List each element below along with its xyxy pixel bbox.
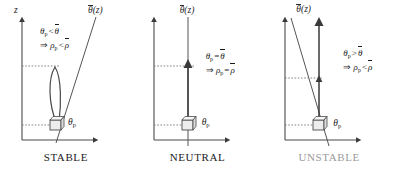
relation-operator: > — [351, 48, 358, 58]
parcel-label-neutral: θp — [202, 118, 210, 128]
rhs-symbol-2: ρ — [65, 38, 69, 52]
theta-bar-symbol: θ — [180, 5, 185, 16]
theta-bar-arg: (z) — [93, 5, 103, 15]
caption-neutral: NEUTRAL — [132, 151, 264, 163]
relation-line-2: ⇒ ρp=ρ — [206, 63, 235, 77]
implies-symbol: ⇒ — [40, 40, 48, 50]
panel-unstable-graphic — [263, 0, 395, 172]
relation-line-2: ⇒ ρp<ρ — [40, 38, 69, 52]
panel-unstable: θ(z) θp>θ ⇒ ρp<ρ θp UNSTABLE — [263, 0, 395, 172]
panel-neutral: θ(z) θp=θ ⇒ ρp=ρ θp NEUTRAL — [132, 0, 264, 172]
theta-bar-symbol: θ — [296, 4, 301, 15]
relation-operator-2: < — [58, 40, 65, 50]
relation-text-unstable: θp>θ ⇒ ρp<ρ — [343, 46, 372, 74]
relation-line-1: θp<θ — [40, 24, 69, 38]
stability-figure: z θ(z) θp<θ ⇒ ρp<ρ θp STABLE — [0, 0, 395, 172]
panel-stable: z θ(z) θp<θ ⇒ ρp<ρ θp STABLE — [0, 0, 132, 172]
parcel-box — [313, 117, 327, 131]
parcel-label-stable: θp — [68, 118, 76, 128]
theta-bar-profile-label: θ(z) — [296, 4, 311, 15]
parcel-label-unstable: θp — [333, 119, 341, 129]
relation-operator: < — [47, 26, 54, 36]
intermediate-arrowhead — [316, 75, 323, 82]
parcel-box — [182, 117, 196, 131]
rhs-symbol-2: ρ — [368, 60, 372, 74]
theta-bar-arg: (z) — [301, 4, 311, 14]
caption-stable: STABLE — [0, 151, 132, 163]
lhs-subscript-2: p — [358, 67, 361, 73]
parcel-subscript: p — [338, 122, 341, 129]
theta-bar-profile-label: θ(z) — [88, 5, 103, 16]
rhs-symbol: θ — [220, 49, 224, 63]
parcel-subscript: p — [73, 121, 76, 128]
relation-line-2: ⇒ ρp<ρ — [343, 60, 372, 74]
implies-symbol: ⇒ — [206, 65, 214, 75]
relation-operator-2: < — [361, 62, 368, 72]
lhs-subscript: p — [210, 56, 213, 62]
lhs-subscript: p — [348, 53, 351, 59]
theta-bar-profile-label: θ(z) — [180, 5, 195, 16]
parcel-symbol: θ — [68, 117, 73, 127]
oscillation-arrow — [50, 67, 60, 124]
theta-bar-symbol: θ — [88, 5, 93, 16]
relation-line-1: θp=θ — [206, 49, 235, 63]
parcel-subscript: p — [206, 121, 209, 128]
relation-text-stable: θp<θ ⇒ ρp<ρ — [40, 24, 69, 52]
lhs-subscript-2: p — [55, 45, 58, 51]
caption-unstable: UNSTABLE — [263, 151, 395, 163]
theta-bar-arg: (z) — [184, 5, 194, 15]
relation-line-1: θp>θ — [343, 46, 372, 60]
parcel-box — [50, 117, 64, 131]
relation-text-neutral: θp=θ ⇒ ρp=ρ — [206, 49, 235, 77]
panel-neutral-graphic — [132, 0, 264, 172]
rhs-symbol-2: ρ — [230, 63, 234, 77]
axis-label-z: z — [14, 6, 18, 16]
lhs-symbol-2: ρ — [50, 40, 54, 50]
relation-operator: = — [213, 51, 220, 61]
implies-symbol: ⇒ — [343, 62, 351, 72]
rhs-symbol: θ — [55, 24, 59, 38]
rhs-symbol: θ — [358, 46, 362, 60]
lhs-subscript-2: p — [220, 70, 223, 76]
